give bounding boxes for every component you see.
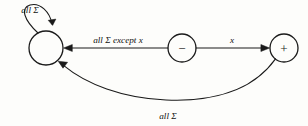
minus-to-plus-arrowhead bbox=[261, 45, 270, 52]
state-start-circle bbox=[29, 31, 63, 65]
state-start bbox=[29, 31, 63, 65]
state-diagram-figure: − + all Σ all Σ except x x all Σ bbox=[0, 0, 308, 126]
state-plus: + bbox=[270, 34, 298, 62]
automaton-canvas: − + all Σ all Σ except x x all Σ bbox=[0, 0, 308, 126]
edge-label-plus-to-start: all Σ bbox=[159, 111, 177, 121]
edge-minus-to-start bbox=[64, 45, 168, 52]
edge-minus-to-plus bbox=[196, 45, 269, 52]
edge-plus-to-start bbox=[58, 59, 275, 100]
state-plus-symbol: + bbox=[280, 41, 287, 56]
self-loop-arrowhead bbox=[48, 19, 56, 25]
minus-to-start-arrowhead bbox=[64, 45, 73, 52]
edge-label-minus-to-plus: x bbox=[229, 35, 235, 45]
edge-label-minus-to-start: all Σ except x bbox=[93, 35, 144, 45]
state-minus-symbol: − bbox=[178, 41, 185, 56]
plus-to-start-path bbox=[64, 59, 276, 100]
state-minus: − bbox=[168, 34, 196, 62]
edge-label-self-loop: all Σ bbox=[21, 5, 39, 15]
